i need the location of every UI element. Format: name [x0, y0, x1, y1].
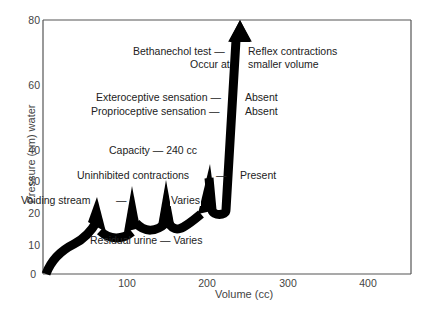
annotation-smaller-volume: smaller volume — [248, 58, 319, 70]
y-axis-label: Pressure (cm) water — [25, 99, 37, 209]
annotation-capacity: Capacity — 240 cc — [109, 144, 197, 156]
annotation-reflex: Reflex contractions — [248, 45, 337, 57]
y-tick: 60 — [16, 79, 40, 91]
annotation-uninhibited: Uninhibited contractions — [77, 169, 189, 181]
annotation-exteroceptive: Exteroceptive sensation — — [96, 91, 221, 103]
annotation-occur-at: Occur at — [190, 58, 230, 70]
annotation-bethanechol: Bethanechol test — — [133, 45, 225, 57]
annotation-exteroceptive-value: Absent — [245, 91, 278, 103]
x-tick: 400 — [348, 277, 388, 289]
x-axis-label: Volume (cc) — [215, 288, 273, 300]
y-tick: 0 — [12, 268, 36, 280]
annotation-uninhibited-dash: — — [216, 169, 227, 181]
x-tick: 100 — [107, 277, 147, 289]
annotation-proprioceptive-value: Absent — [245, 105, 278, 117]
annotation-proprioceptive: Proprioceptive sensation — — [91, 105, 219, 117]
annotation-residual-urine: Residual urine — Varies — [90, 234, 202, 246]
y-tick: 10 — [16, 239, 40, 251]
annotation-voiding-value: Varies — [170, 194, 201, 206]
x-tick: 300 — [268, 277, 308, 289]
annotation-voiding-dash: — — [116, 194, 127, 206]
annotation-voiding-stream: Voiding stream — [21, 194, 90, 206]
annotation-uninhibited-value: Present — [240, 169, 276, 181]
y-tick: 80 — [16, 14, 40, 26]
